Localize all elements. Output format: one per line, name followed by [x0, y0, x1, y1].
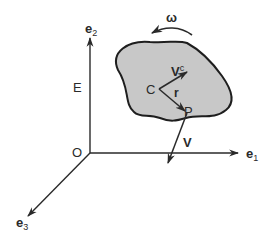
label-e3: e3	[16, 215, 28, 232]
e3-axis	[28, 153, 90, 216]
label-e1: e1	[246, 146, 258, 163]
label-center-C: C	[146, 82, 155, 97]
rigid-body-shape	[116, 42, 232, 121]
label-e2: e2	[85, 21, 97, 38]
label-velocity-point: V	[183, 135, 192, 150]
angular-velocity-arrow	[152, 28, 192, 35]
label-omega: ω	[166, 10, 177, 25]
label-frame-E: E	[73, 80, 82, 95]
label-point-P: P	[184, 104, 193, 119]
label-origin-O: O	[72, 145, 82, 160]
rigid-body-kinematics-diagram: e2 e1 e3 E O ω C P r Vc V	[0, 0, 270, 239]
label-r: r	[174, 86, 179, 100]
